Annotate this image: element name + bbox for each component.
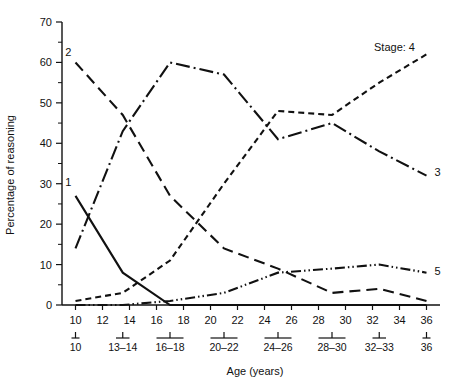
y-tick-label: 50 (40, 97, 52, 109)
data-series (76, 54, 427, 305)
chart-container: 010203040506070 101214161820222426283032… (0, 0, 461, 383)
series-label-1: 1 (65, 176, 71, 188)
x-group-label: 16–18 (155, 341, 184, 353)
axes (62, 22, 440, 305)
series-label-3: 3 (435, 166, 441, 178)
x-group-label: 32–33 (365, 341, 394, 353)
x-axis-title: Age (years) (227, 365, 284, 377)
x-group-label: 24–26 (263, 341, 292, 353)
series-line-3 (76, 62, 427, 248)
x-group-label: 36 (421, 341, 433, 353)
x-tick-label: 12 (96, 314, 108, 326)
x-tick-label: 10 (69, 314, 81, 326)
series-line-4 (76, 54, 427, 301)
y-tick-label: 60 (40, 56, 52, 68)
y-tick-label: 20 (40, 218, 52, 230)
series-label-5: 5 (435, 265, 441, 277)
y-tick-labels: 010203040506070 (40, 16, 52, 311)
y-tick-label: 0 (46, 299, 52, 311)
y-tick-label: 70 (40, 16, 52, 28)
line-chart: 010203040506070 101214161820222426283032… (0, 0, 461, 383)
plot-area: 010203040506070 101214161820222426283032… (40, 16, 441, 353)
x-group-brackets: 1013–1416–1820–2224–2628–3032–3336 (70, 332, 433, 353)
x-tick-label: 34 (393, 314, 405, 326)
x-tick-label: 24 (258, 314, 270, 326)
x-tick-label: 14 (123, 314, 135, 326)
x-tick-label: 22 (231, 314, 243, 326)
series-label-2: 2 (65, 46, 71, 58)
x-tick-label: 36 (420, 314, 432, 326)
x-group-label: 20–22 (209, 341, 238, 353)
y-tick-label: 10 (40, 259, 52, 271)
stage-legend-label: Stage: 4 (374, 41, 415, 53)
x-group-label: 10 (70, 341, 82, 353)
y-tick-label: 40 (40, 137, 52, 149)
x-tick-label: 18 (177, 314, 189, 326)
x-tick-label: 26 (285, 314, 297, 326)
x-tick-label: 30 (339, 314, 351, 326)
series-labels: 2135 (65, 46, 440, 276)
x-tick-label: 28 (312, 314, 324, 326)
axis-ticks (56, 22, 427, 310)
series-line-5 (76, 265, 427, 305)
x-tick-label: 20 (204, 314, 216, 326)
x-group-label: 28–30 (317, 341, 346, 353)
x-tick-label: 32 (366, 314, 378, 326)
x-group-label: 13–14 (108, 341, 137, 353)
series-line-2 (76, 62, 427, 301)
y-axis-title: Percentage of reasoning (4, 115, 16, 235)
x-tick-label: 16 (150, 314, 162, 326)
y-tick-label: 30 (40, 178, 52, 190)
x-tick-labels: 1012141618202224262830323436 (69, 314, 432, 326)
